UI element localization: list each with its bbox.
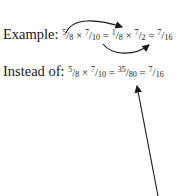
annotation-arrows [0, 0, 193, 196]
pointer-arrow [137, 86, 158, 196]
bottom-curved-arrow [103, 44, 149, 53]
top-curved-arrow [66, 21, 122, 33]
